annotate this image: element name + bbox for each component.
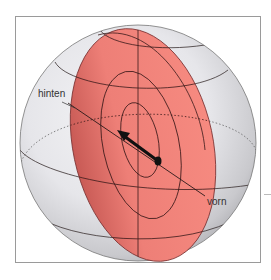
label-vorn: vorn bbox=[207, 196, 226, 207]
sphere-diagram: hinten vorn bbox=[0, 0, 271, 280]
label-hinten: hinten bbox=[38, 88, 65, 99]
